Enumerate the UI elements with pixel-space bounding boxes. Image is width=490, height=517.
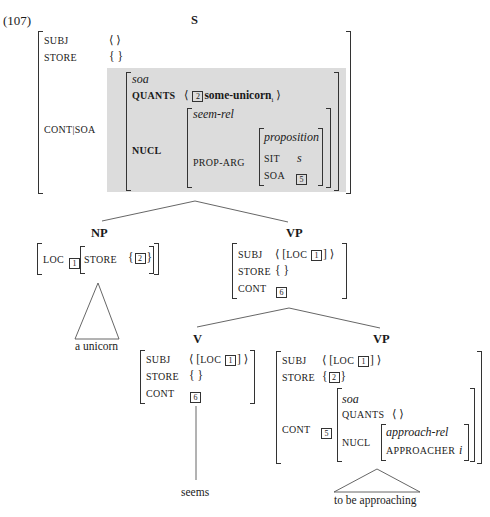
node-label-np: NP [91, 226, 108, 241]
attr-nucl: NUCL [132, 145, 162, 156]
tag-5: 5 [295, 169, 308, 187]
bracket-left [232, 243, 237, 299]
attr-cont: CONT [282, 424, 310, 435]
attr-store: STORE [84, 254, 117, 265]
attr-approacher: APPROACHER [386, 445, 455, 456]
bracket-left [140, 350, 145, 404]
bracket-right [342, 243, 347, 299]
tag-6: 6 [189, 387, 202, 405]
bracket-right [464, 424, 469, 461]
val-subj: ⟨ [LOC 1] ⟩ [189, 352, 248, 366]
attr-cont: CONT [146, 388, 174, 399]
attr-subj: SUBJ [146, 354, 171, 365]
bracket-left [276, 351, 281, 464]
val-subj: ⟨ [LOC 1] ⟩ [275, 247, 334, 261]
leaf-seems: seems [181, 486, 209, 498]
attr-subj: SUBJ [282, 355, 307, 366]
example-number: (107) [3, 13, 31, 29]
attr-loc: LOC [43, 254, 64, 265]
attr-store: STORE [238, 266, 271, 277]
val-quants: ⟨ ⟩ [392, 407, 404, 421]
attr-nucl: NUCL [342, 437, 370, 448]
attr-store: STORE [44, 52, 77, 63]
bracket-right [346, 31, 351, 194]
val-store: {2} [128, 251, 152, 264]
bracket-right [250, 350, 255, 404]
node-label-s: S [191, 13, 198, 28]
val-store: { } [275, 264, 289, 276]
attr-quants: QUANTS [132, 90, 175, 101]
type-soa: soa [132, 72, 149, 87]
node-label-vp: VP [286, 226, 303, 241]
val-quants: ⟨ 2some-unicorni ⟩ [184, 88, 281, 104]
attr-store: STORE [146, 371, 179, 382]
bracket-right [477, 351, 482, 464]
leaf-a-unicorn: a unicorn [75, 340, 118, 352]
attr-quants: QUANTS [342, 409, 384, 420]
bracket-right [334, 72, 339, 191]
type-approach-rel: approach-rel [386, 425, 448, 440]
tag-5: 5 [320, 423, 333, 441]
val-subj: ⟨ [LOC 1] ⟩ [322, 353, 381, 367]
attr-subj: SUBJ [238, 249, 263, 260]
bracket-left [126, 72, 131, 191]
attr-subj: SUBJ [44, 35, 69, 46]
attr-cont-soa: CONT|SOA [44, 124, 96, 135]
attr-soa: SOA [264, 170, 285, 181]
val-store: { } [189, 369, 203, 381]
attr-sit: SIT [264, 153, 280, 164]
attr-store: STORE [282, 372, 315, 383]
node-label-vp: VP [373, 332, 390, 347]
bracket-right [470, 388, 475, 462]
tag-6: 6 [275, 282, 288, 300]
type-proposition: proposition [264, 130, 319, 145]
bracket-left [38, 31, 43, 194]
bracket-right [326, 108, 331, 188]
bracket-left [37, 243, 42, 275]
val-approacher: i [459, 443, 462, 458]
val-sit: s [297, 151, 302, 166]
node-label-v: V [193, 332, 202, 347]
val-subj: ⟨ ⟩ [109, 33, 121, 47]
leaf-to-be-approaching: to be approaching [334, 494, 416, 506]
type-seem-rel: seem-rel [193, 107, 234, 122]
bracket-right [154, 243, 159, 275]
val-store: {2} [322, 370, 346, 383]
attr-cont: CONT [238, 283, 266, 294]
bracket-left [187, 108, 192, 188]
type-soa: soa [342, 392, 359, 407]
attr-prop-arg: PROP-ARG [193, 157, 245, 168]
val-store: { } [109, 50, 123, 62]
